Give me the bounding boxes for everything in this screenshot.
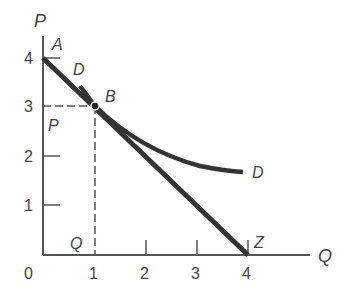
x-tick-label-4: 4 [242, 265, 251, 282]
point-z-label: Z [253, 234, 265, 251]
x-tick-label-2: 2 [140, 265, 149, 282]
y-tick-label-2: 2 [24, 148, 33, 165]
quantity-q-label: Q [70, 235, 82, 252]
point-b-label: B [105, 88, 116, 105]
point-b [91, 102, 99, 110]
x-tick-label-3: 3 [191, 265, 200, 282]
y-tick-label-3: 3 [24, 98, 33, 115]
curve-d-right-label: D [252, 164, 264, 181]
point-a-label: A [51, 36, 63, 53]
origin-label: 0 [24, 265, 33, 282]
q-axis-label: Q [318, 246, 332, 266]
price-p-label: P [48, 117, 59, 134]
y-tick-label-4: 4 [24, 50, 33, 67]
p-axis-label: P [34, 11, 46, 31]
line-az [43, 58, 248, 255]
y-tick-label-1: 1 [24, 197, 33, 214]
x-tick-label-1: 1 [89, 265, 98, 282]
curve-d-top-label: D [73, 61, 85, 78]
diagram: P Q 0 1 2 3 4 1 2 3 4 A D B P Q D Z [0, 0, 354, 293]
